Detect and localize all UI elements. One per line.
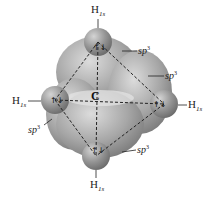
electron-pair-icon: ↑↓: [91, 146, 104, 155]
sp3-label-upper-right: sp3: [138, 45, 150, 56]
h1s-label-right: H1s: [188, 99, 202, 113]
sp3-label-lower-left: sp3: [28, 124, 40, 135]
h1s-label-left: H1s: [12, 95, 26, 109]
electron-pair-icon: ↑↓: [153, 100, 166, 109]
methane-orbital-diagram: ↑↓ ↑↓ ↑↓ ↑↓: [0, 0, 209, 198]
carbon-label: C: [91, 89, 100, 104]
electron-pair-icon: ↑↓: [93, 43, 106, 52]
sp3-label-right: sp3: [165, 70, 177, 81]
sp3-label-lower-right: sp3: [137, 144, 149, 155]
electron-pair-icon: ↑↓: [50, 96, 63, 105]
h1s-label-bottom: H1s: [90, 179, 104, 193]
h1s-label-top: H1s: [91, 4, 105, 18]
